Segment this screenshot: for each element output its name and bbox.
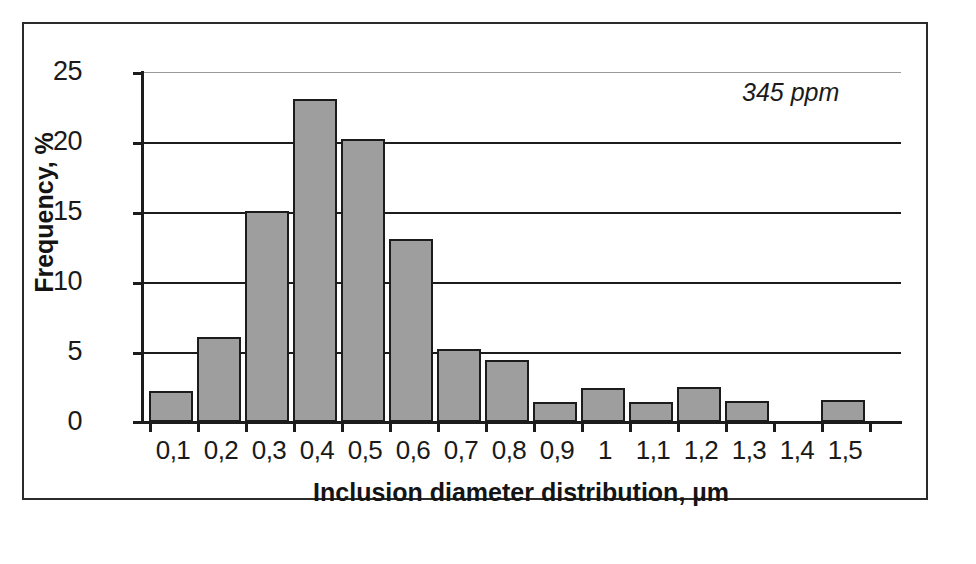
- bar-0-6: [389, 239, 433, 422]
- y-tick-mark-20: [133, 142, 142, 145]
- bar-1-1: [629, 402, 673, 422]
- x-tick-mark-5: [389, 423, 392, 432]
- bar-0-7: [437, 349, 481, 422]
- bar-0-2: [197, 337, 241, 422]
- x-tick-mark-9: [581, 423, 584, 432]
- x-axis-title: Inclusion diameter distribution, µm: [141, 478, 901, 507]
- x-tick-mark-11: [677, 423, 680, 432]
- x-tick-mark-1: [197, 423, 200, 432]
- x-tick-label-14: 1,5: [815, 437, 875, 463]
- bar-0-5: [341, 139, 385, 422]
- bar-0-4: [293, 99, 337, 422]
- x-tick-mark-13: [773, 423, 776, 432]
- gridline-20: [141, 142, 901, 144]
- x-tick-mark-6: [437, 423, 440, 432]
- bar-0-9: [533, 402, 577, 422]
- y-tick-mark-25: [133, 72, 142, 75]
- annotation-ppm-label: 345 ppm: [742, 78, 839, 107]
- x-tick-mark-2: [245, 423, 248, 432]
- x-tick-mark-4: [341, 423, 344, 432]
- plot-area: [141, 72, 901, 422]
- y-tick-mark-10: [133, 282, 142, 285]
- bar-0-3: [245, 211, 289, 422]
- x-tick-mark-14: [821, 423, 824, 432]
- gridline-25: [141, 72, 901, 73]
- bar-chart: 25 20 15 10 5 0 0,1 0,2 0,3 0,4 0,5 0,6 …: [0, 0, 976, 564]
- x-axis-line: [141, 421, 902, 424]
- x-tick-mark-0: [149, 423, 152, 432]
- y-tick-mark-0: [133, 421, 142, 424]
- y-tick-label-0: 0: [67, 408, 82, 435]
- x-tick-mark-8: [533, 423, 536, 432]
- y-axis-title: Frequency, %: [30, 83, 59, 343]
- figure-page: 25 20 15 10 5 0 0,1 0,2 0,3 0,4 0,5 0,6 …: [0, 0, 976, 564]
- bar-0-1: [149, 391, 193, 422]
- x-tick-mark-12: [725, 423, 728, 432]
- x-tick-mark-3: [293, 423, 296, 432]
- x-tick-mark-15: [869, 423, 872, 432]
- x-tick-mark-7: [485, 423, 488, 432]
- bar-1-3: [725, 401, 769, 422]
- bar-1-2: [677, 387, 721, 422]
- x-tick-mark-10: [629, 423, 632, 432]
- y-tick-label-25: 25: [53, 58, 82, 85]
- bar-1-5: [821, 400, 865, 422]
- bar-0-8: [485, 360, 529, 422]
- y-tick-mark-5: [133, 352, 142, 355]
- y-tick-label-5: 5: [67, 338, 82, 365]
- y-tick-mark-15: [133, 212, 142, 215]
- y-axis-line: [141, 71, 144, 424]
- bar-1: [581, 388, 625, 422]
